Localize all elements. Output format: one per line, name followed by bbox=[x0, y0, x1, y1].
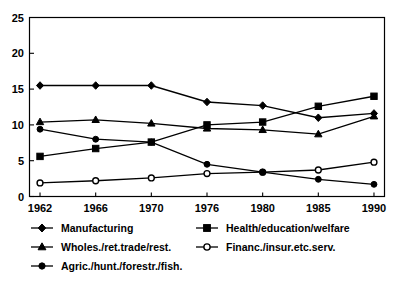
data-point bbox=[315, 167, 321, 173]
data-point bbox=[371, 159, 377, 165]
y-tick-label: 10 bbox=[12, 119, 24, 131]
data-point bbox=[148, 82, 155, 90]
chart-legend: ManufacturingHealth/education/welfareWho… bbox=[31, 222, 350, 272]
data-point bbox=[371, 181, 377, 187]
legend-marker-square-icon bbox=[204, 225, 211, 232]
legend-item-wholes-ret-trade-rest: Wholes./ret.trade/rest. bbox=[31, 241, 171, 253]
legend-item-agric-hunt-forestr-fish: Agric./hunt./forestr./fish. bbox=[31, 260, 182, 272]
series-layer bbox=[36, 82, 377, 188]
series-manufacturing bbox=[36, 82, 377, 122]
data-point bbox=[37, 126, 43, 132]
y-tick-label: 5 bbox=[18, 155, 24, 167]
y-tick-label: 25 bbox=[12, 12, 24, 24]
data-point bbox=[203, 98, 210, 106]
line-chart: 0510152025 1962196619701976198019851990 … bbox=[0, 0, 398, 284]
x-tick-label: 1976 bbox=[195, 202, 219, 214]
data-point bbox=[259, 119, 265, 125]
legend-marker-diamond-icon bbox=[38, 224, 45, 232]
legend-label: Financ./insur.etc.serv. bbox=[226, 241, 336, 253]
data-point bbox=[315, 176, 321, 182]
legend-marker-triangle-icon bbox=[38, 243, 46, 250]
legend-label: Wholes./ret.trade/rest. bbox=[61, 241, 171, 253]
data-point bbox=[204, 171, 210, 177]
legend-item-financ-insur-etc-serv: Financ./insur.etc.serv. bbox=[196, 241, 336, 253]
legend-item-health-education-welfare: Health/education/welfare bbox=[196, 222, 350, 234]
x-tick-label: 1980 bbox=[250, 202, 274, 214]
data-point bbox=[148, 175, 154, 181]
legend-marker-circle-icon bbox=[39, 263, 45, 269]
data-point bbox=[315, 103, 321, 109]
data-point bbox=[204, 161, 210, 167]
legend-item-manufacturing: Manufacturing bbox=[31, 222, 133, 234]
data-point bbox=[148, 139, 154, 145]
data-point bbox=[37, 180, 43, 186]
x-tick-label: 1962 bbox=[28, 202, 52, 214]
data-point bbox=[36, 82, 43, 90]
data-point bbox=[260, 169, 266, 175]
data-point bbox=[93, 178, 99, 184]
y-tick-label: 20 bbox=[12, 47, 24, 59]
x-tick-label: 1966 bbox=[83, 202, 107, 214]
legend-label: Agric./hunt./forestr./fish. bbox=[61, 260, 182, 272]
plot-frame bbox=[30, 18, 385, 197]
data-point bbox=[92, 145, 98, 151]
data-point bbox=[92, 82, 99, 90]
legend-label: Manufacturing bbox=[61, 222, 133, 234]
data-point bbox=[37, 153, 43, 159]
data-point bbox=[315, 114, 322, 122]
y-tick-label: 0 bbox=[18, 191, 24, 203]
y-axis: 0510152025 bbox=[12, 12, 34, 203]
data-point bbox=[259, 102, 266, 110]
x-tick-label: 1990 bbox=[362, 202, 386, 214]
chart-canvas: 0510152025 1962196619701976198019851990 … bbox=[0, 0, 398, 284]
series-wholes-ret-trade-rest bbox=[36, 112, 377, 136]
legend-label: Health/education/welfare bbox=[226, 222, 350, 234]
y-tick-label: 15 bbox=[12, 83, 24, 95]
x-axis: 1962196619701976198019851990 bbox=[28, 193, 386, 214]
series-agric-hunt-forestr-fish bbox=[37, 126, 377, 187]
data-point bbox=[371, 93, 377, 99]
x-tick-label: 1985 bbox=[306, 202, 330, 214]
x-tick-label: 1970 bbox=[139, 202, 163, 214]
legend-marker-circle-icon bbox=[204, 244, 210, 250]
data-point bbox=[92, 116, 99, 123]
data-point bbox=[93, 136, 99, 142]
